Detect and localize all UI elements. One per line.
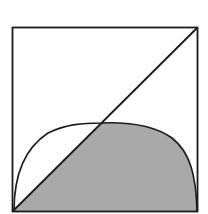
figure-canvas [0, 0, 208, 214]
geometry-figure [0, 0, 208, 214]
